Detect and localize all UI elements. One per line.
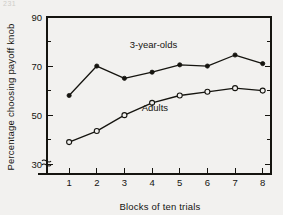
- series-label-3-year-olds: 3-year-olds: [130, 39, 178, 50]
- y-axis-tick-labels: 30507090: [31, 12, 42, 170]
- data-point-3-year-olds-1: [67, 93, 71, 97]
- x-tick-label: 7: [232, 177, 237, 188]
- data-point-3-year-olds-5: [178, 63, 182, 67]
- y-tick-label: 30: [31, 159, 42, 170]
- data-point-adults-6: [205, 89, 210, 94]
- line-chart: 30507090 12345678 3-year-oldsAdults Bloc…: [0, 0, 283, 215]
- x-axis-tick-labels: 12345678: [66, 177, 265, 188]
- x-tick-label: 6: [205, 177, 210, 188]
- x-tick-label: 3: [122, 177, 127, 188]
- x-tick-label: 1: [66, 177, 71, 188]
- data-point-3-year-olds-8: [261, 62, 265, 66]
- data-point-3-year-olds-4: [150, 70, 154, 74]
- x-tick-label: 5: [177, 177, 182, 188]
- data-point-3-year-olds-6: [205, 64, 209, 68]
- y-axis-title: Percentage choosing payoff knob: [5, 23, 16, 170]
- data-point-3-year-olds-7: [233, 53, 237, 57]
- data-point-adults-2: [94, 129, 99, 134]
- y-tick-label: 70: [31, 61, 42, 72]
- series-label-adults: Adults: [142, 102, 169, 113]
- data-point-adults-5: [177, 93, 182, 98]
- data-point-3-year-olds-3: [122, 76, 126, 80]
- x-tick-label: 8: [260, 177, 265, 188]
- data-point-adults-3: [122, 113, 127, 118]
- data-point-adults-7: [233, 86, 238, 91]
- x-tick-label: 2: [94, 177, 99, 188]
- y-tick-label: 90: [31, 12, 42, 23]
- series-line-adults: [69, 88, 263, 142]
- figure-container: 231 30507090 12345678 3-year-oldsAdults …: [0, 0, 283, 215]
- data-point-adults-8: [260, 88, 265, 93]
- y-tick-label: 50: [31, 110, 42, 121]
- data-point-3-year-olds-2: [95, 64, 99, 68]
- x-axis-title: Blocks of ten trials: [119, 201, 200, 212]
- x-axis-ticks: [69, 168, 263, 174]
- data-point-adults-1: [67, 140, 72, 145]
- x-tick-label: 4: [149, 177, 154, 188]
